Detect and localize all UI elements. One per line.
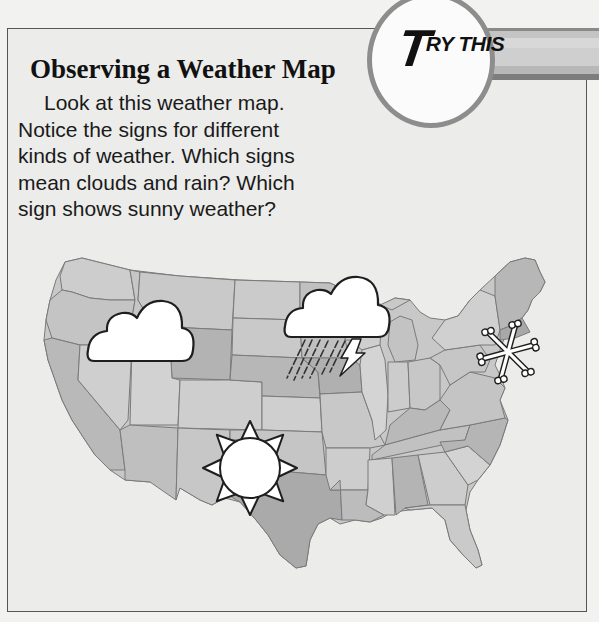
- us-states: [44, 258, 545, 568]
- sun-icon: [203, 421, 297, 515]
- us-weather-map: [0, 0, 599, 622]
